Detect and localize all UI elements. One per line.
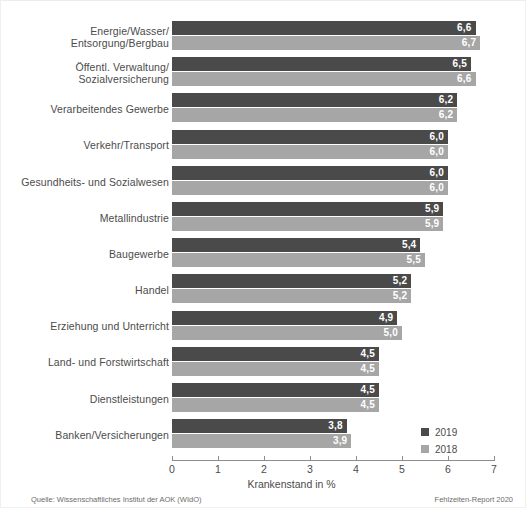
category-label: Banken/Versicherungen: [19, 417, 169, 453]
x-axis-tick-label: 1: [206, 463, 230, 475]
bar-rows: Energie/Wasser/Entsorgung/Bergbau6,66,7Ö…: [1, 19, 526, 453]
x-axis-tick-label: 2: [252, 463, 276, 475]
bar-value-label: 5,0: [383, 327, 398, 338]
chart-legend: 2019 2018: [421, 425, 457, 459]
bar-group: 4,95,0: [172, 309, 512, 345]
bar-2019: 6,0: [172, 166, 448, 180]
bar-row: Dienstleistungen4,54,5: [1, 381, 526, 417]
bar-group: 3,83,9: [172, 417, 512, 453]
x-axis-tick: [310, 456, 311, 461]
bar-row: Metallindustrie5,95,9: [1, 200, 526, 236]
bar-2018: 6,0: [172, 181, 448, 195]
bar-2018: 5,5: [172, 253, 425, 267]
bar-value-label: 6,0: [429, 146, 444, 157]
bar-value-label: 6,7: [462, 37, 477, 48]
category-label-line: Dienstleistungen: [90, 393, 169, 406]
category-label-line: Erziehung und Unterricht: [50, 320, 169, 333]
bar-row: Handel5,25,2: [1, 272, 526, 308]
legend-label-2019: 2019: [435, 427, 457, 438]
bar-value-label: 4,5: [360, 348, 375, 359]
bar-2019: 4,5: [172, 383, 379, 397]
category-label-line: Banken/Versicherungen: [55, 429, 169, 442]
bar-value-label: 3,8: [328, 420, 343, 431]
x-axis-tick-label: 7: [482, 463, 506, 475]
x-axis-tick: [494, 456, 495, 461]
x-axis-tick-label: 5: [390, 463, 414, 475]
bar-group: 6,06,0: [172, 164, 512, 200]
x-axis-tick: [264, 456, 265, 461]
chart-footer: Quelle: Wissenschaftliches Institut der …: [1, 490, 526, 508]
bar-row: Erziehung und Unterricht4,95,0: [1, 309, 526, 345]
bar-row: Öffentl. Verwaltung/Sozialversicherung6,…: [1, 55, 526, 91]
bar-value-label: 6,6: [457, 73, 472, 84]
bar-row: Baugewerbe5,45,5: [1, 236, 526, 272]
category-label: Energie/Wasser/Entsorgung/Bergbau: [19, 19, 169, 55]
category-label: Erziehung und Unterricht: [19, 309, 169, 345]
category-label-line: Verkehr/Transport: [84, 139, 169, 152]
x-axis-line: [172, 460, 494, 461]
x-axis-tick-label: 3: [298, 463, 322, 475]
chart-figure: Energie/Wasser/Entsorgung/Bergbau6,66,7Ö…: [0, 0, 526, 508]
bar-value-label: 6,0: [429, 131, 444, 142]
category-label-line: Sozialversicherung: [78, 73, 169, 86]
bar-2018: 5,0: [172, 326, 402, 340]
bar-2019: 4,9: [172, 311, 397, 325]
category-label: Handel: [19, 272, 169, 308]
bar-2018: 6,6: [172, 72, 476, 86]
legend-item-2018: 2018: [421, 442, 457, 456]
bar-value-label: 4,5: [360, 363, 375, 374]
bar-2018: 6,0: [172, 145, 448, 159]
bar-group: 6,06,0: [172, 128, 512, 164]
bar-2019: 4,5: [172, 347, 379, 361]
source-note: Quelle: Wissenschaftliches Institut der …: [31, 495, 201, 504]
bar-group: 6,26,2: [172, 91, 512, 127]
bar-group: 4,54,5: [172, 345, 512, 381]
x-axis-tick-label: 4: [344, 463, 368, 475]
legend-label-2018: 2018: [435, 444, 457, 455]
bar-row: Gesundheits- und Sozialwesen6,06,0: [1, 164, 526, 200]
x-axis-title: Krankenstand in %: [1, 478, 526, 490]
category-label-line: Metallindustrie: [100, 212, 169, 225]
category-label-line: Energie/Wasser/: [90, 25, 169, 38]
bar-value-label: 6,5: [452, 58, 467, 69]
bar-value-label: 3,9: [333, 435, 348, 446]
bar-value-label: 4,5: [360, 384, 375, 395]
category-label-line: Öffentl. Verwaltung/: [75, 61, 169, 74]
bar-row: Energie/Wasser/Entsorgung/Bergbau6,66,7: [1, 19, 526, 55]
category-label: Gesundheits- und Sozialwesen: [19, 164, 169, 200]
bar-2019: 5,4: [172, 238, 420, 252]
category-label: Dienstleistungen: [19, 381, 169, 417]
bar-group: 5,45,5: [172, 236, 512, 272]
bar-row: Verarbeitendes Gewerbe6,26,2: [1, 91, 526, 127]
bar-2019: 3,8: [172, 419, 347, 433]
bar-row: Verkehr/Transport6,06,0: [1, 128, 526, 164]
bar-value-label: 6,0: [429, 182, 444, 193]
plot-area: Energie/Wasser/Entsorgung/Bergbau6,66,7Ö…: [1, 1, 526, 471]
bar-2019: 6,6: [172, 21, 476, 35]
bar-value-label: 6,0: [429, 167, 444, 178]
report-note: Fehlzeiten-Report 2020: [435, 495, 513, 504]
bar-value-label: 4,5: [360, 399, 375, 410]
bar-2019: 6,0: [172, 130, 448, 144]
bar-2018: 3,9: [172, 434, 351, 448]
category-label: Baugewerbe: [19, 236, 169, 272]
bar-value-label: 6,6: [457, 22, 472, 33]
x-axis-tick-label: 6: [436, 463, 460, 475]
bar-group: 6,66,7: [172, 19, 512, 55]
bar-2018: 6,2: [172, 108, 457, 122]
category-label-line: Gesundheits- und Sozialwesen: [21, 176, 169, 189]
category-label: Verarbeitendes Gewerbe: [19, 91, 169, 127]
legend-swatch-icon-2018: [421, 445, 429, 453]
bar-2019: 5,9: [172, 202, 443, 216]
legend-item-2019: 2019: [421, 425, 457, 439]
category-label: Land- und Forstwirtschaft: [19, 345, 169, 381]
bar-2018: 4,5: [172, 398, 379, 412]
bar-value-label: 6,2: [439, 109, 454, 120]
bar-group: 4,54,5: [172, 381, 512, 417]
x-axis-tick: [218, 456, 219, 461]
x-axis-tick: [402, 456, 403, 461]
bar-2019: 5,2: [172, 274, 411, 288]
bar-value-label: 4,9: [379, 312, 394, 323]
bar-value-label: 5,9: [425, 218, 440, 229]
legend-swatch-icon-2019: [421, 428, 429, 436]
